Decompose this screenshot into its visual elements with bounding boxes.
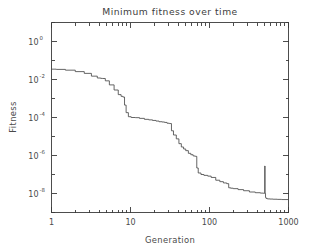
x-axis-tick-labels: 1101001000 — [49, 218, 299, 227]
svg-text:-4: -4 — [40, 111, 46, 117]
x-axis-label: Generation — [145, 235, 195, 245]
x-tick-label: 1 — [49, 218, 54, 227]
chart-figure: 10010-210-410-610-8 1101001000 Minimum f… — [0, 0, 314, 252]
y-axis-label: Fitness — [8, 101, 18, 132]
fitness-curve — [52, 69, 289, 199]
svg-text:10: 10 — [28, 38, 38, 47]
y-tick-label: 10-8 — [28, 187, 45, 199]
plot-frame — [52, 23, 289, 213]
x-tick-label: 100 — [202, 218, 217, 227]
svg-text:-8: -8 — [40, 187, 46, 193]
x-axis-ticks — [52, 23, 289, 213]
y-tick-label: 10-2 — [28, 73, 45, 85]
svg-text:-6: -6 — [40, 149, 46, 155]
y-axis-ticks — [52, 23, 289, 213]
x-tick-label: 1000 — [278, 218, 298, 227]
chart-title: Minimum fitness over time — [102, 6, 238, 17]
svg-text:-2: -2 — [40, 73, 45, 79]
svg-text:10: 10 — [28, 76, 38, 85]
y-axis-tick-labels: 10010-210-410-610-8 — [28, 35, 45, 199]
svg-text:10: 10 — [28, 114, 38, 123]
y-tick-label: 100 — [28, 35, 43, 47]
y-tick-label: 10-6 — [28, 149, 45, 161]
svg-text:0: 0 — [40, 35, 44, 41]
svg-text:10: 10 — [28, 190, 38, 199]
svg-text:10: 10 — [28, 152, 38, 161]
y-tick-label: 10-4 — [28, 111, 45, 123]
minimum-fitness-log-log-plot: 10010-210-410-610-8 1101001000 Minimum f… — [0, 0, 314, 252]
x-tick-label: 10 — [125, 218, 135, 227]
